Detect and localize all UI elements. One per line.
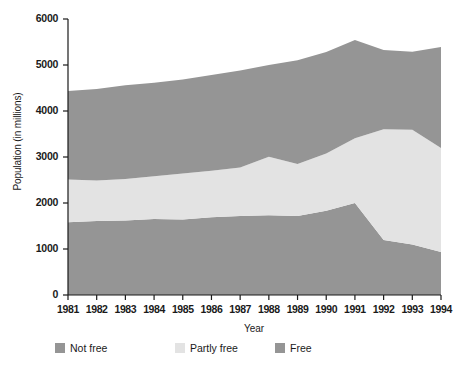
legend-item-free[interactable]: Free (275, 343, 312, 354)
y-tick-marks (63, 19, 68, 295)
y-tick-label: 2000 (24, 196, 58, 208)
y-tick-label: 4000 (24, 104, 58, 116)
legend-swatch-icon (275, 343, 285, 353)
legend-item-partly-free[interactable]: Partly free (175, 343, 238, 354)
y-tick-label: 0 (24, 288, 58, 300)
x-tick-label: 1994 (421, 303, 460, 315)
y-tick-label: 1000 (24, 242, 58, 254)
legend-swatch-icon (175, 343, 185, 353)
y-tick-label: 5000 (24, 58, 58, 70)
chart-legend: Not freePartly freeFree (0, 341, 460, 359)
stacked-area-chart: Population (in millions) 010002000300040… (0, 0, 460, 368)
x-axis-title: Year (68, 323, 440, 334)
area-series-group (68, 40, 441, 295)
legend-item-not-free[interactable]: Not free (55, 343, 107, 354)
legend-label: Partly free (190, 343, 238, 354)
legend-label: Free (290, 343, 312, 354)
x-tick-marks (68, 295, 441, 300)
legend-label: Not free (70, 343, 107, 354)
y-tick-label: 6000 (24, 12, 58, 24)
y-tick-label: 3000 (24, 150, 58, 162)
legend-swatch-icon (55, 343, 65, 353)
